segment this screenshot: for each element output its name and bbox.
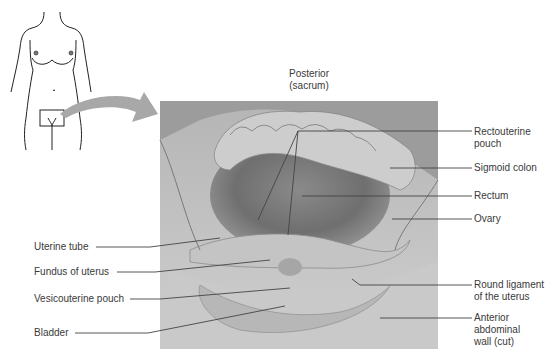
orientation-line1: Posterior [274, 68, 344, 80]
label-round-ligament: Round ligament of the uterus [474, 279, 544, 303]
label-anterior-abdominal-wall: Anterior abdominal wall (cut) [474, 312, 520, 348]
nipple-left [34, 51, 38, 55]
label-fundus-of-uterus: Fundus of uterus [34, 266, 109, 278]
label-vesicouterine-pouch: Vesicouterine pouch [34, 293, 124, 305]
nipple-right [69, 51, 73, 55]
pointer-arrow-icon [60, 92, 158, 122]
body-outline-illustration [11, 12, 91, 150]
orientation-line2: (sacrum) [274, 80, 344, 92]
label-bladder: Bladder [34, 327, 68, 339]
orientation-label: Posterior (sacrum) [274, 68, 344, 92]
anatomy-figure [0, 0, 558, 362]
label-uterine-tube: Uterine tube [34, 241, 88, 253]
label-rectouterine-pouch: Rectouterine pouch [474, 126, 531, 150]
navel [53, 90, 55, 91]
label-rectum: Rectum [474, 190, 508, 202]
label-ovary: Ovary [474, 213, 501, 225]
label-sigmoid-colon: Sigmoid colon [474, 162, 537, 174]
dissection-photo [160, 101, 438, 349]
